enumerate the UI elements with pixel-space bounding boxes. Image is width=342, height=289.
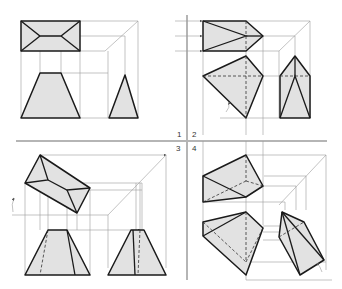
quadrant-3 [12, 155, 166, 275]
q4-side-view [279, 212, 324, 275]
quadrant-label-4: 4 [192, 144, 196, 153]
quadrant-label-3: 3 [176, 144, 180, 153]
q3-top-view [25, 155, 90, 213]
q1-side-view [109, 75, 138, 118]
q4-top-view [203, 155, 263, 202]
quadrant-label-2: 2 [192, 130, 196, 139]
q3-front-view [25, 230, 90, 275]
diagram-canvas: 1 2 3 4 [0, 0, 342, 289]
q3-side-view [108, 230, 166, 275]
q2-front-view [203, 56, 263, 118]
quadrant-2 [175, 21, 310, 135]
q4-front-view [203, 212, 263, 275]
projection-diagram [0, 0, 342, 289]
quadrant-1 [21, 21, 138, 118]
q1-front-view [21, 73, 80, 118]
quadrant-4 [203, 141, 332, 280]
quadrant-label-1: 1 [177, 130, 181, 139]
